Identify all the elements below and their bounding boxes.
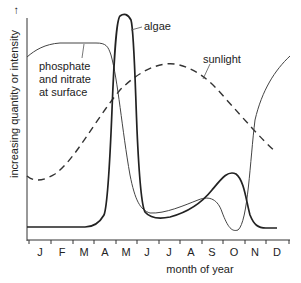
x-axis-title: month of year [166, 263, 234, 275]
phosphate-label-line3: at surface [39, 86, 87, 98]
y-axis-title-group: increasing quantity or intensity → [8, 5, 20, 178]
algae-label: algae [144, 20, 171, 32]
algae-curve [27, 14, 277, 228]
month-label-may: M [121, 246, 130, 258]
phosphate-label-line2: and nitrate [39, 73, 91, 85]
phosphate-label-line1: phosphate [39, 60, 90, 72]
y-axis-arrow-icon: → [8, 5, 20, 16]
sunlight-leader-line [203, 64, 210, 79]
month-label-jun: J [144, 246, 150, 258]
month-label-nov: N [251, 246, 259, 258]
month-label-oct: O [230, 246, 239, 258]
month-label-feb: F [59, 246, 66, 258]
x-axis-month-labels: J F M A M J J A S O N D [37, 246, 281, 258]
sunlight-label: sunlight [203, 53, 241, 65]
seasonal-cycle-diagram: J F M A M J J A S O N D month of year in… [0, 0, 301, 283]
month-label-sep: S [208, 246, 215, 258]
month-label-dec: D [273, 246, 281, 258]
month-label-aug: A [187, 246, 195, 258]
month-label-mar: M [79, 246, 88, 258]
y-axis-title: increasing quantity or intensity [8, 30, 20, 178]
phosphate-leader-line [82, 44, 84, 58]
month-label-jul: J [166, 246, 172, 258]
x-axis-ticks [29, 240, 289, 244]
month-label-jan: J [37, 246, 43, 258]
month-label-apr: A [101, 246, 109, 258]
